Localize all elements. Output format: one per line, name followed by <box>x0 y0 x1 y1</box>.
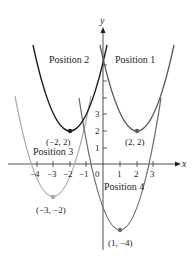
vertex-point-4 <box>118 228 122 232</box>
y-tick-label: 1 <box>95 143 100 153</box>
vertex-point-1 <box>135 129 139 133</box>
x-tick-label: −4 <box>30 169 40 179</box>
x-axis-arrow-icon <box>175 162 181 167</box>
vertex-point-3 <box>51 195 55 199</box>
vertex-point-2 <box>68 129 72 133</box>
parabola-diagram: y x −4 −3 −2 −1 0 1 2 3 1 2 3 Position 2… <box>0 0 193 258</box>
x-tick-label: 3 <box>150 169 155 179</box>
y-axis-arrow-icon <box>101 27 106 33</box>
x-tick-label: 1 <box>117 169 122 179</box>
vertex-3-label: (−3, −2) <box>36 205 66 215</box>
y-ticks <box>103 65 107 148</box>
vertex-2-label: (−2, 2) <box>46 137 71 147</box>
position-3-label: Position 3 <box>33 146 73 157</box>
x-tick-label: 2 <box>134 169 139 179</box>
position-2-label: Position 2 <box>49 54 89 65</box>
y-tick-label: 3 <box>95 109 100 119</box>
origin-label: 0 <box>95 169 100 179</box>
y-axis-label: y <box>99 15 105 26</box>
y-tick-label: 2 <box>95 126 100 136</box>
position-4-label: Position 4 <box>104 181 144 192</box>
x-axis-label: x <box>181 158 187 169</box>
position-1-label: Position 1 <box>115 54 155 65</box>
x-tick-label: −1 <box>79 169 89 179</box>
vertex-4-label: (1, −4) <box>108 238 133 248</box>
vertex-1-label: (2, 2) <box>125 137 145 147</box>
x-tick-label: −2 <box>63 169 73 179</box>
x-tick-label: −3 <box>47 169 57 179</box>
